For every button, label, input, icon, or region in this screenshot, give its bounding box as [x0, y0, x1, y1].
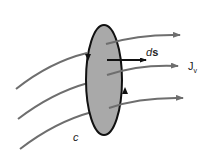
flux-line-in-1 [16, 53, 87, 89]
label-ds: ds [146, 46, 158, 58]
flux-surface-diagram: ds Jv c [0, 0, 209, 155]
contour-arrow-up-icon [122, 87, 128, 94]
label-current-density: Jv [188, 60, 198, 74]
flux-line-in-2 [18, 83, 88, 119]
flux-line-in-3 [20, 112, 92, 149]
label-contour-c: c [73, 131, 79, 143]
